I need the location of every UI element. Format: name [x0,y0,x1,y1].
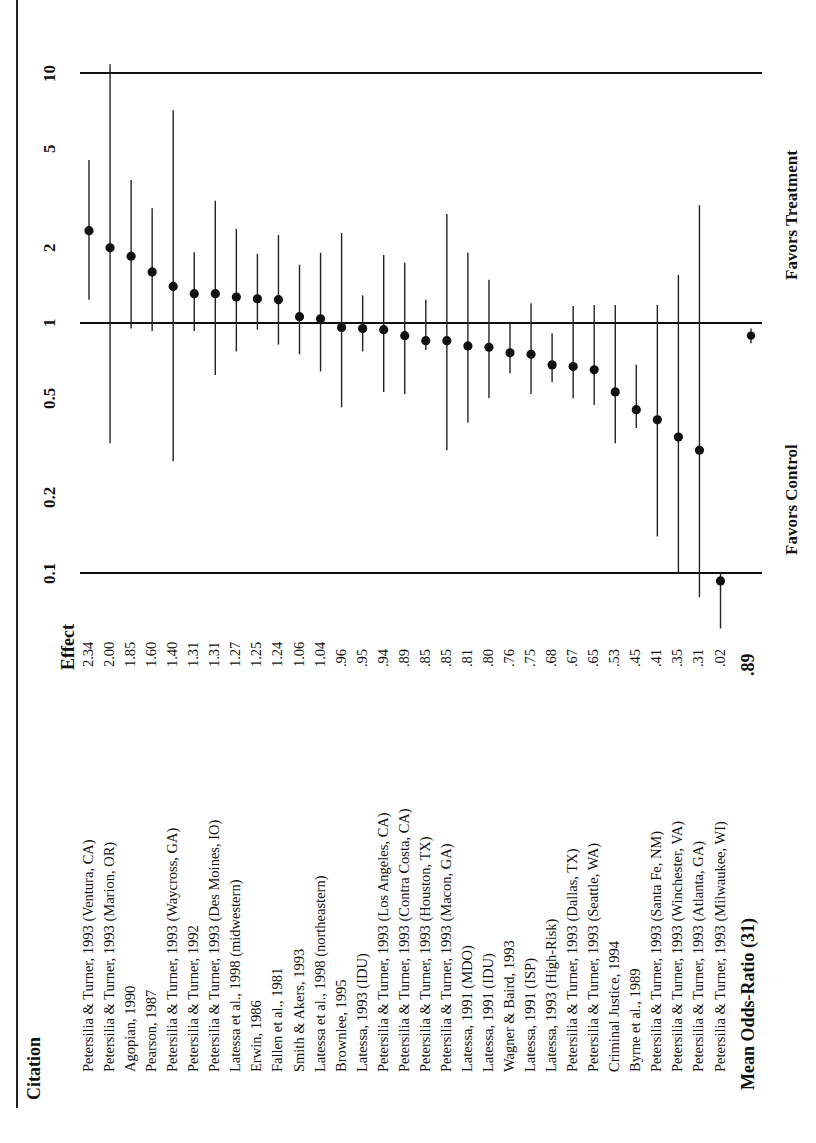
study-citation: Latessa, 1993 (High-Risk) [544,919,559,1072]
study-effect: .45 [628,649,643,667]
study-effect: .80 [481,649,496,667]
effect-point [590,365,599,374]
study-effect: .94 [376,649,391,667]
effect-point [358,324,367,333]
study-citation: Petersilia & Turner, 1993 (Seattle, WA) [586,843,601,1072]
study-effect: 1.85 [123,642,138,667]
effect-point [463,341,472,350]
study-citation: Petersilia & Turner, 1993 (Contra Costa,… [397,808,412,1072]
study-citation: Petersilia & Turner, 1993 (Ventura, CA) [81,839,96,1072]
effect-point [653,415,662,424]
axis-tick-label: 2 [40,243,60,252]
effect-point [127,252,136,261]
axis-tick-label: 0.1 [40,562,60,583]
effect-point [84,226,93,235]
study-effect: .68 [544,649,559,667]
effect-point [400,331,409,340]
study-citation: Latessa et al., 1998 (midwestern) [228,880,243,1072]
favors-treatment-label: Favors Treatment [782,150,802,280]
study-citation: Petersilia & Turner, 1993 (Des Moines, I… [207,820,222,1072]
study-effect: .41 [649,649,664,667]
study-effect: .76 [502,649,517,667]
axis-tick-label: 5 [40,144,60,153]
study-effect: 1.27 [228,642,243,667]
effect-point [337,323,346,332]
study-effect: .65 [586,649,601,667]
study-citation: Petersilia & Turner, 1993 (Winchester, V… [670,821,685,1072]
forest-plot-page: 0.10.20.512510 Citation Effect Petersili… [0,0,816,1143]
study-effect: .95 [355,649,370,667]
study-effect: .85 [439,649,454,667]
study-effect: 1.04 [313,642,328,667]
effect-point [190,289,199,298]
effect-point [232,292,241,301]
effect-point [211,289,220,298]
study-effect: .02 [713,649,728,667]
study-citation: Byrne et al., 1989 [628,969,643,1073]
study-citation: Petersilia & Turner, 1993 (Waycross, GA) [165,828,180,1072]
study-citation: Criminal Justice, 1994 [607,941,622,1072]
effect-point [295,312,304,321]
effect-point [316,314,325,323]
study-citation: Petersilia & Turner, 1993 (Marion, OR) [102,842,117,1072]
effect-point [421,336,430,345]
study-citation: Latessa, 1993 (IDU) [355,953,370,1072]
summary-point [747,331,755,339]
study-citation: Petersilia & Turner, 1993 (Atlanta, GA) [691,841,706,1072]
effect-point [253,294,262,303]
axis-tick-label: 0.5 [40,388,60,409]
study-citation: Petersilia & Turner, 1993 (Dallas, TX) [565,849,580,1072]
study-effect: .35 [670,649,685,667]
study-citation: Latessa, 1991 (MDO) [460,945,475,1072]
study-effect: 1.25 [249,642,264,667]
study-effect: .75 [523,649,538,667]
study-effect: 1.40 [165,642,180,667]
effect-point [505,348,514,357]
study-effect: 1.60 [144,642,159,667]
effect-point [632,405,641,414]
study-effect: .81 [460,649,475,667]
study-effect: 1.24 [270,642,285,667]
study-citation: Petersilia & Turner, 1993 (Santa Fe, NM) [649,831,664,1072]
study-effect: .31 [691,649,706,667]
study-effect: .96 [334,649,349,667]
effect-point [548,360,557,369]
mean-odds-ratio-label: Mean Odds-Ratio (31) [738,918,759,1090]
study-effect: 2.00 [102,642,117,667]
effect-point [442,336,451,345]
study-citation: Brownlee, 1995 [334,979,349,1072]
axis-tick-label: 0.2 [40,487,60,508]
study-citation: Latessa, 1991 (IDU) [481,953,496,1072]
effect-header: Effect [58,624,79,670]
effect-point [169,282,178,291]
study-citation: Latessa, 1991 (ISP) [523,958,538,1072]
study-effect: .53 [607,649,622,667]
study-citation: Latessa et al., 1998 (northeastern) [313,876,328,1072]
study-citation: Wagner & Baird, 1993 [502,940,517,1072]
citation-header: Citation [24,1037,45,1100]
study-citation: Fallen et al., 1981 [270,968,285,1072]
effect-point [105,243,114,252]
study-citation: Petersilia & Turner, 1993 (Milwaukee, WI… [713,821,728,1072]
effect-point [148,267,157,276]
study-citation: Erwin, 1986 [249,1000,264,1072]
effect-point [674,432,683,441]
study-citation: Petersilia & Turner, 1993 (Los Angeles, … [376,812,391,1072]
effect-point [569,362,578,371]
study-citation: Agopian, 1990 [123,986,138,1072]
mean-effect-value: .89 [738,654,759,677]
study-effect: 1.31 [186,642,201,667]
study-effect: 1.06 [292,642,307,667]
study-citation: Smith & Akers, 1993 [292,949,307,1072]
effect-point [695,446,704,455]
effect-point [611,387,620,396]
effect-point [274,295,283,304]
study-citation: Pearson, 1987 [144,990,159,1072]
effect-point [526,350,535,359]
axis-tick-label: 1 [40,319,60,328]
study-effect: .85 [418,649,433,667]
study-effect: 1.31 [207,642,222,667]
effect-point [484,343,493,352]
study-effect: 2.34 [81,642,96,667]
study-effect: .67 [565,649,580,667]
